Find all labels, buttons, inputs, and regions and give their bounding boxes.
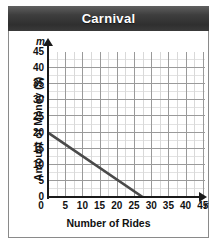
y-tick-label: 30 [24, 94, 44, 105]
series-line-money [48, 133, 143, 197]
y-tick-label: 10 [24, 159, 44, 170]
y-tick-label: 35 [24, 78, 44, 89]
y-axis-line [47, 44, 49, 199]
x-tick-label: 45 [192, 200, 214, 211]
y-tick-label: 45 [24, 46, 44, 57]
y-tick-label: 15 [24, 143, 44, 154]
y-tick-label: 5 [24, 175, 44, 186]
y-tick-label: 40 [24, 62, 44, 73]
x-axis-title: Number of Rides [8, 217, 209, 229]
y-tick-label: 25 [24, 111, 44, 122]
chart-figure: Carnival Amount of Money ($) m r 0510152… [0, 0, 216, 242]
y-tick-label: 20 [24, 127, 44, 138]
x-axis-tick-labels: 051015202530354045 [0, 200, 216, 214]
data-line-svg [48, 52, 205, 197]
plot-area [48, 52, 205, 197]
x-axis-line [47, 196, 201, 198]
x-tick-label: 0 [30, 200, 52, 211]
